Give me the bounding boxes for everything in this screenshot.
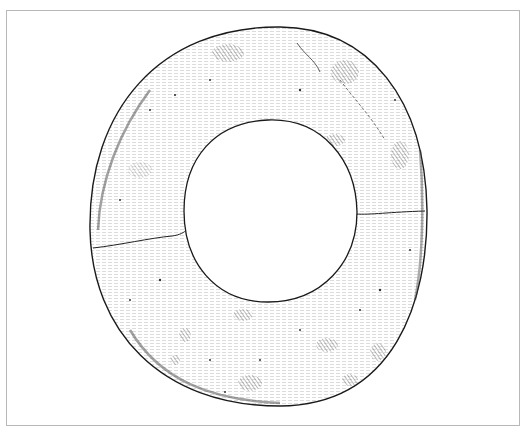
hatch-patch bbox=[370, 343, 386, 361]
hatch-patch bbox=[342, 374, 358, 386]
hatch-patch bbox=[316, 338, 338, 352]
hatch-patch bbox=[238, 375, 262, 391]
hatch-patch bbox=[179, 328, 191, 342]
hatch-patch bbox=[391, 141, 409, 169]
hatch-patch bbox=[331, 60, 359, 84]
hatch-patch bbox=[128, 162, 152, 178]
center-hole bbox=[184, 120, 357, 302]
hatch-patch bbox=[170, 355, 180, 365]
hatch-patch bbox=[212, 44, 244, 62]
hatch-patch bbox=[233, 309, 253, 321]
ring-artifact-drawing bbox=[0, 0, 527, 433]
